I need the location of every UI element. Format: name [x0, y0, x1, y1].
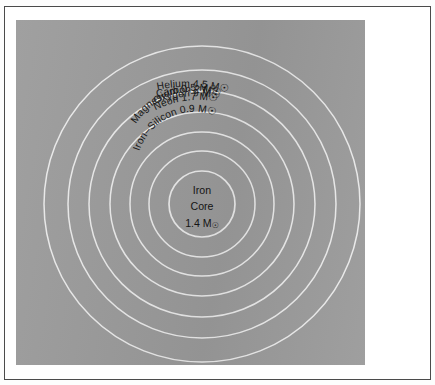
- core-mass-value: 1.4 M: [185, 217, 212, 229]
- core-label-line2: Core: [191, 200, 214, 212]
- figure-frame: Helium 4.5 M☉ Carbon 2 M☉ Oxygen 9 M☉ Ne…: [4, 6, 431, 380]
- core-label-line1: Iron: [193, 184, 211, 196]
- shells-svg: Helium 4.5 M☉ Carbon 2 M☉ Oxygen 9 M☉ Ne…: [16, 20, 365, 365]
- core-label-line3: 1.4 M☉: [185, 217, 219, 230]
- concentric-shells: Helium 4.5 M☉ Carbon 2 M☉ Oxygen 9 M☉ Ne…: [16, 20, 365, 365]
- figure-page: Helium 4.5 M☉ Carbon 2 M☉ Oxygen 9 M☉ Ne…: [0, 0, 435, 385]
- diagram-panel: Helium 4.5 M☉ Carbon 2 M☉ Oxygen 9 M☉ Ne…: [16, 20, 365, 365]
- solar-mass-symbol-icon: ☉: [212, 221, 219, 230]
